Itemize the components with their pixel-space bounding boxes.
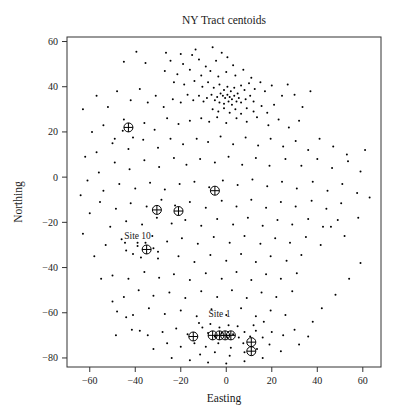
scatter-point (155, 95, 157, 97)
scatter-point (145, 62, 147, 64)
scatter-point (165, 52, 167, 54)
scatter-point (369, 196, 371, 198)
scatter-point (300, 254, 302, 256)
x-axis-label: Easting (207, 392, 242, 405)
scatter-point (183, 83, 185, 85)
scatter-point (130, 99, 132, 101)
scatter-point (218, 102, 220, 104)
scatter-point (296, 187, 298, 189)
scatter-point (364, 149, 366, 151)
scatter-point (193, 181, 195, 183)
scatter-point (231, 104, 233, 106)
site-marker (124, 123, 133, 132)
scatter-point (180, 102, 182, 104)
scatter-point (93, 255, 95, 257)
scatter-point (184, 219, 186, 221)
scatter-point (168, 291, 170, 293)
scatter-point (137, 245, 139, 247)
scatter-point (232, 224, 234, 226)
scatter-point (158, 277, 160, 279)
scatter-point (265, 273, 267, 275)
scatter-point (173, 157, 175, 159)
scatter-point (201, 86, 203, 88)
scatter-plot-figure: NY Tract centoids Easting Northing −60−4… (0, 0, 400, 415)
site-label: Site 1 (208, 309, 230, 319)
site-marker (210, 186, 219, 195)
scatter-point (149, 182, 151, 184)
scatter-point (162, 331, 164, 333)
scatter-point (207, 141, 209, 143)
scatter-point (115, 208, 117, 210)
scatter-point (264, 90, 266, 92)
scatter-point (282, 334, 284, 336)
scatter-point (237, 325, 239, 327)
scatter-point (96, 95, 98, 97)
scatter-point (166, 342, 168, 344)
scatter-point (132, 253, 134, 255)
scatter-point (243, 351, 245, 353)
scatter-point (200, 290, 202, 292)
scatter-point (152, 247, 154, 249)
scatter-point (217, 111, 219, 113)
scatter-point (281, 95, 283, 97)
scatter-point (200, 225, 202, 227)
scatter-point (280, 350, 282, 352)
scatter-point (125, 220, 127, 222)
scatter-point (216, 218, 218, 220)
site-label: Site 10 (124, 231, 151, 241)
site-marker (174, 207, 183, 216)
scatter-point (256, 116, 258, 118)
scatter-point (291, 224, 293, 226)
scatter-point (273, 104, 275, 106)
scatter-point (243, 89, 245, 91)
scatter-point (163, 106, 165, 108)
scatter-point (284, 158, 286, 160)
scatter-point (172, 98, 174, 100)
scatter-point (209, 254, 211, 256)
scatter-point (291, 290, 293, 292)
scatter-point (240, 85, 242, 87)
scatter-point (203, 100, 205, 102)
scatter-point (229, 96, 231, 98)
scatter-point (246, 121, 248, 123)
scatter-point (295, 206, 297, 208)
scatter-point (125, 250, 127, 252)
scatter-point (221, 278, 223, 280)
scatter-point (246, 297, 248, 299)
scatter-point (262, 357, 264, 359)
scatter-point (236, 100, 238, 102)
scatter-point (257, 144, 259, 146)
scatter-point (250, 279, 252, 281)
scatter-point (212, 46, 214, 48)
scatter-point (241, 164, 243, 166)
scatter-point (116, 311, 118, 313)
scatter-point (253, 111, 255, 113)
scatter-point (145, 242, 147, 244)
scatter-point (216, 116, 218, 118)
scatter-point (236, 117, 238, 119)
scatter-point (189, 201, 191, 203)
scatter-point (245, 137, 247, 139)
scatter-point (319, 138, 321, 140)
scatter-point (148, 307, 150, 309)
scatter-point (210, 94, 212, 96)
scatter-point (127, 278, 129, 280)
scatter-point (320, 244, 322, 246)
y-tick-label: 60 (48, 36, 58, 47)
scatter-point (123, 296, 125, 298)
scatter-point (245, 98, 247, 100)
scatter-point (170, 60, 172, 62)
scatter-point (123, 61, 125, 63)
scatter-point (141, 224, 143, 226)
scatter-point (237, 184, 239, 186)
scatter-point (164, 313, 166, 315)
scatter-point (233, 87, 235, 89)
scatter-point (286, 260, 288, 262)
scatter-point (191, 54, 193, 56)
scatter-point (184, 297, 186, 299)
scatter-point (294, 329, 296, 331)
scatter-point (143, 271, 145, 273)
scatter-point (189, 120, 191, 122)
scatter-point (139, 330, 141, 332)
scatter-point (236, 206, 238, 208)
